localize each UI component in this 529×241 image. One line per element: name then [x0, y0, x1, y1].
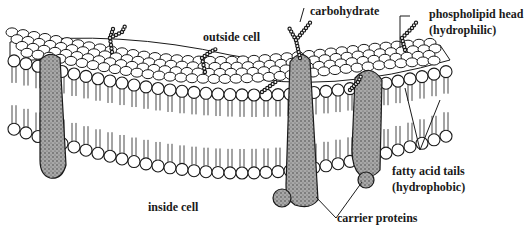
label-phospholipid-head: phospholipid head: [429, 7, 523, 21]
carrier-protein-right: [352, 70, 382, 188]
label-carrier-proteins: carrier proteins: [337, 211, 418, 225]
label-inside-cell: inside cell: [148, 200, 198, 214]
label-outside-cell: outside cell: [203, 30, 260, 44]
label-hydrophobic: (hydrophobic): [392, 180, 465, 194]
membrane-diagram: outside cell carbohydrate phospholipid h…: [0, 0, 529, 241]
label-fatty-acid-tails: fatty acid tails: [392, 164, 465, 178]
label-hydrophilic: (hydrophilic): [429, 23, 496, 37]
label-carbohydrate: carbohydrate: [310, 4, 379, 18]
